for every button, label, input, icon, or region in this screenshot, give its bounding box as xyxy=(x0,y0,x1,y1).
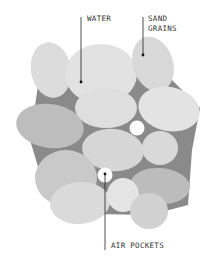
air-pockets-label: AIR POCKETS xyxy=(111,241,164,251)
sand-grains-label-line2: GRAINS xyxy=(148,24,177,34)
water-label: WATER xyxy=(87,14,111,24)
soil-composition-diagram xyxy=(0,0,210,263)
sand-grains xyxy=(13,31,204,229)
water-leader-dot xyxy=(80,81,83,84)
air-pocket xyxy=(130,121,145,136)
sand-grain xyxy=(142,131,178,165)
sand-grain xyxy=(75,88,137,128)
air-pockets-leader-dot xyxy=(104,173,107,176)
sand-grain xyxy=(130,193,168,229)
sand-grains-label-line1: SAND xyxy=(148,14,167,24)
sand-grains-leader-dot xyxy=(142,54,145,57)
